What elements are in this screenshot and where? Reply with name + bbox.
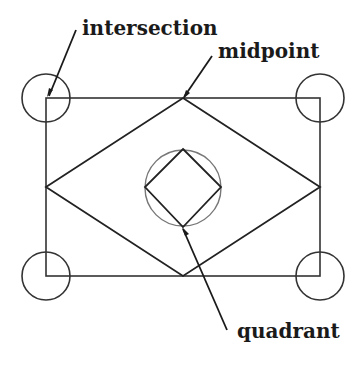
intersection-leader xyxy=(49,30,76,96)
midpoint-leader xyxy=(184,56,212,97)
inner-circle xyxy=(145,150,221,226)
outer-diamond xyxy=(46,98,320,276)
snap-diagram: intersection midpoint quadrant xyxy=(0,0,359,365)
label-intersection: intersection xyxy=(82,16,218,40)
label-quadrant: quadrant xyxy=(237,319,341,343)
quadrant-leader xyxy=(183,229,227,330)
rectangle xyxy=(46,98,320,276)
label-midpoint: midpoint xyxy=(218,39,320,63)
quadrant-arrowhead xyxy=(182,227,189,236)
